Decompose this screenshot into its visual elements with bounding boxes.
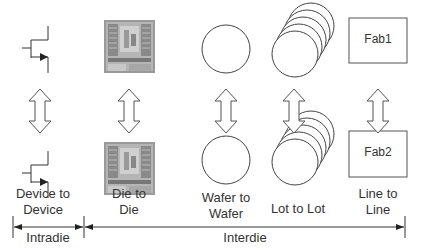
wafer-circle-icon-bottom — [202, 136, 250, 184]
die-to-die-label: Die to Die — [99, 186, 159, 218]
double-arrow-icon — [367, 89, 389, 133]
double-arrow-icon — [215, 89, 237, 133]
wafer-to-wafer-label: Wafer to Wafer — [194, 190, 258, 222]
device-to-device-label: Device to Device — [5, 186, 81, 218]
die-image-top — [104, 20, 155, 73]
fab2-label: Fab2 — [349, 145, 407, 159]
transistor-icon-top — [22, 26, 48, 73]
line-to-line-label: Line to Line — [348, 186, 408, 218]
lot-to-lot-label: Lot to Lot — [262, 201, 334, 217]
double-arrow-icon — [118, 89, 140, 133]
double-arrow-icon — [29, 89, 51, 133]
intradie-label: Intradie — [18, 230, 78, 246]
wafer-circle-icon-top — [202, 25, 250, 73]
wafer-stack-icon-top — [272, 3, 334, 77]
fab1-label: Fab1 — [349, 32, 407, 46]
interdie-label: Interdie — [210, 230, 280, 246]
